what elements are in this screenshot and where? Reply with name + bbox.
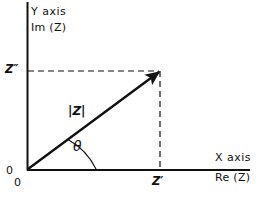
magnitude-label: |Z| (68, 105, 85, 117)
origin-label-below: 0 (14, 177, 21, 188)
x-axis-sublabel: Re (Z) (215, 172, 250, 183)
magnitude-vector (28, 72, 159, 169)
imaginary-component-label: Z″ (5, 64, 18, 76)
x-axis-name-label: X axis (215, 152, 251, 163)
origin-label-left: 0 (6, 165, 13, 176)
real-component-label: Z′ (152, 176, 163, 188)
angle-label: θ (73, 139, 82, 153)
y-axis-name-label: Y axis (31, 6, 66, 17)
y-axis-sublabel: Im (Z) (31, 22, 66, 33)
argand-diagram: Y axis Im (Z) X axis Re (Z) Z″ Z′ 0 0 |Z… (0, 0, 264, 198)
